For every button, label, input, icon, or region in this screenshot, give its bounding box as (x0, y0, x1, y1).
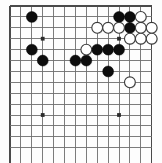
black-stone[interactable] (26, 12, 37, 23)
white-stone[interactable] (124, 33, 135, 44)
white-stone[interactable] (81, 44, 92, 55)
white-stone[interactable] (146, 33, 157, 44)
star-point (41, 37, 45, 41)
white-stone[interactable] (146, 22, 157, 33)
white-stone[interactable] (135, 12, 146, 23)
black-stone[interactable] (81, 55, 92, 66)
go-board[interactable] (0, 0, 162, 163)
white-stone[interactable] (103, 22, 114, 33)
black-stone[interactable] (124, 22, 135, 33)
white-stone[interactable] (135, 33, 146, 44)
white-stone[interactable] (124, 77, 135, 88)
white-stone[interactable] (92, 22, 103, 33)
black-stone[interactable] (103, 44, 114, 55)
black-stone[interactable] (92, 44, 103, 55)
star-point (41, 113, 45, 117)
black-stone[interactable] (124, 12, 135, 23)
black-stone[interactable] (114, 12, 125, 23)
black-stone[interactable] (26, 44, 37, 55)
black-stone[interactable] (70, 55, 81, 66)
black-stone[interactable] (103, 66, 114, 77)
black-stone[interactable] (37, 55, 48, 66)
star-point (117, 37, 121, 41)
white-stone[interactable] (135, 22, 146, 33)
white-stone[interactable] (114, 22, 125, 33)
black-stone[interactable] (114, 44, 125, 55)
star-point (117, 113, 121, 117)
go-board-canvas[interactable] (0, 0, 162, 163)
go-diagram-screen (0, 0, 162, 163)
